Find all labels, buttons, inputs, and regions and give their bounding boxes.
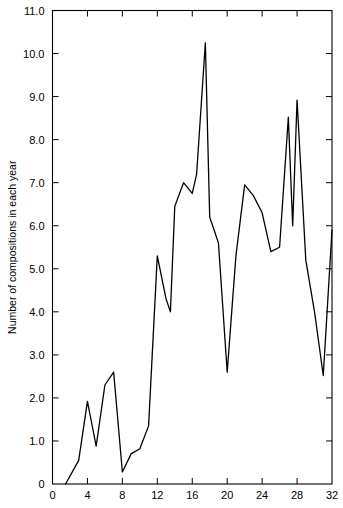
y-tick-label: 11.0 [24, 5, 45, 17]
y-tick-label: 6.0 [29, 220, 44, 232]
x-tick-label: 8 [119, 489, 125, 501]
plot-background [0, 0, 343, 508]
x-tick-label: 24 [256, 489, 268, 501]
y-tick-label: 3.0 [29, 349, 44, 361]
x-tick-label: 20 [221, 489, 233, 501]
y-tick-label: 9.0 [29, 91, 44, 103]
line-chart: 048121620242832 01.02.03.04.05.06.07.08.… [0, 0, 343, 508]
y-tick-label: 2.0 [29, 392, 44, 404]
x-tick-label: 0 [49, 489, 55, 501]
x-tick-label: 32 [326, 489, 338, 501]
chart-figure: 048121620242832 01.02.03.04.05.06.07.08.… [0, 0, 343, 508]
x-tick-label: 12 [151, 489, 163, 501]
x-tick-label: 16 [186, 489, 198, 501]
y-tick-label: 1.0 [29, 435, 44, 447]
y-tick-label: 8.0 [29, 134, 44, 146]
y-axis-title: Number of compositions in each year [6, 160, 18, 334]
y-tick-label: 4.0 [29, 306, 44, 318]
y-tick-label: 10.0 [23, 48, 44, 60]
x-tick-label: 28 [291, 489, 303, 501]
x-tick-label: 4 [84, 489, 90, 501]
y-tick-label: 7.0 [29, 177, 44, 189]
y-tick-label: 5.0 [29, 263, 44, 275]
y-tick-label: 0 [38, 478, 44, 490]
svg-text:Number of compositions in each: Number of compositions in each year [6, 160, 18, 334]
